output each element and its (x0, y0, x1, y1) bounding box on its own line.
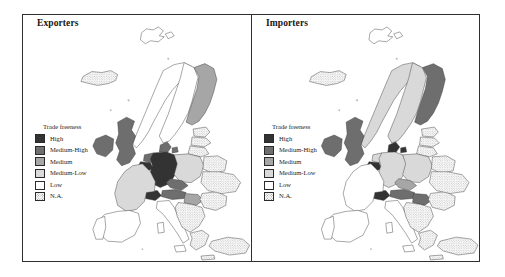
country-iceland (309, 71, 346, 86)
legend-label-medium-low: Medium-Low (279, 170, 316, 177)
country-denmark (388, 142, 400, 153)
legend-exporters: Trade freeness High Medium-High Medium M… (35, 123, 131, 203)
legend-label-medium: Medium (279, 159, 301, 166)
legend-label-high: High (50, 136, 63, 143)
choropleth-figure: Exporters Trade freeness High Medium-Hig… (22, 14, 480, 262)
legend-label-medium-low: Medium-Low (50, 170, 87, 177)
panel-title-exporters: Exporters (37, 18, 79, 28)
country-iceland (81, 71, 118, 86)
legend-swatch-medium (35, 157, 45, 166)
map-speck (142, 248, 144, 250)
legend-swatch-medium-low (264, 169, 274, 178)
legend-swatch-medium (264, 157, 274, 166)
country-austria (390, 190, 415, 200)
country-estonia (193, 127, 210, 137)
legend-swatch-low (35, 181, 45, 190)
country-latvia (420, 137, 440, 147)
country-svalbard (140, 27, 164, 44)
country-turkey (209, 237, 250, 255)
country-ukraine (201, 172, 241, 194)
country-svalbard (369, 27, 393, 44)
country-belarus (431, 156, 455, 174)
map-speck (167, 58, 169, 60)
country-greece (419, 230, 438, 250)
legend-item-na: N.A. (264, 191, 360, 203)
map-speck (370, 248, 372, 250)
country-sardinia (386, 222, 393, 233)
country-estonia (422, 127, 439, 137)
country-svalbard-isle (165, 32, 174, 39)
country-crete (201, 255, 215, 260)
map-speck (127, 99, 129, 101)
legend-item-medium-low: Medium-Low (264, 168, 360, 180)
country-romania (200, 192, 227, 211)
map-speck (110, 109, 112, 111)
legend-label-medium-high: Medium-High (50, 147, 88, 154)
legend-label-high: High (279, 136, 292, 143)
legend-swatch-medium-low (35, 169, 45, 178)
country-denmark-isles (401, 147, 407, 153)
legend-importers: Trade freeness High Medium-High Medium M… (264, 123, 360, 203)
legend-title: Trade freeness (272, 123, 360, 130)
legend-item-medium-low: Medium-Low (35, 168, 131, 180)
legend-item-medium: Medium (264, 156, 360, 168)
legend-item-na: N.A. (35, 191, 131, 203)
map-speck (396, 58, 398, 60)
legend-item-medium-high: Medium-High (35, 145, 131, 157)
country-portugal (321, 216, 334, 239)
legend-label-na: N.A. (50, 193, 63, 200)
country-austria (161, 190, 186, 200)
legend-label-low: Low (50, 182, 62, 189)
legend-swatch-medium-high (264, 146, 274, 155)
country-sardinia (157, 222, 164, 233)
country-latvia (191, 137, 211, 147)
legend-swatch-low (264, 181, 274, 190)
country-romania (428, 192, 455, 211)
panel-importers: Importers Trade freeness High Medium-Hig… (251, 15, 479, 261)
country-svalbard-isle (394, 32, 403, 39)
country-sicily (403, 245, 415, 252)
legend-item-high: High (264, 133, 360, 145)
legend-item-medium-high: Medium-High (264, 145, 360, 157)
legend-swatch-na (35, 192, 45, 201)
country-sicily (174, 245, 186, 252)
legend-swatch-medium-high (35, 146, 45, 155)
legend-swatch-na (264, 192, 274, 201)
legend-label-na: N.A. (279, 193, 292, 200)
country-portugal (93, 216, 106, 239)
map-speck (356, 99, 358, 101)
legend-label-medium-high: Medium-High (279, 147, 317, 154)
panel-exporters: Exporters Trade freeness High Medium-Hig… (23, 15, 251, 261)
country-greece (190, 230, 209, 250)
panel-title-importers: Importers (266, 18, 308, 28)
legend-title: Trade freeness (43, 123, 131, 130)
legend-item-low: Low (264, 179, 360, 191)
map-speck (338, 109, 340, 111)
legend-label-low: Low (279, 182, 291, 189)
country-poland (403, 154, 433, 183)
legend-label-medium: Medium (50, 159, 72, 166)
country-poland (174, 154, 204, 183)
country-belarus (203, 156, 227, 174)
legend-swatch-high (35, 134, 45, 143)
legend-item-high: High (35, 133, 131, 145)
country-denmark (159, 142, 171, 153)
legend-item-low: Low (35, 179, 131, 191)
legend-swatch-high (264, 134, 274, 143)
country-crete (429, 255, 443, 260)
country-turkey (437, 237, 478, 255)
legend-item-medium: Medium (35, 156, 131, 168)
country-denmark-isles (172, 147, 178, 153)
country-ukraine (429, 172, 469, 194)
